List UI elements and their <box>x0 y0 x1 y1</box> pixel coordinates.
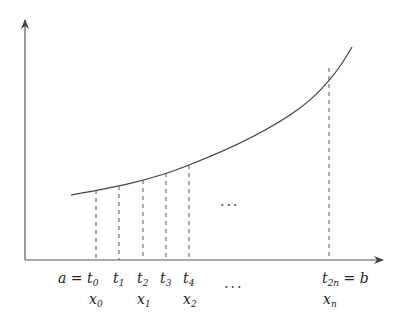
label-t4: t4 <box>183 270 195 288</box>
label-t2: t2 <box>137 270 149 288</box>
ellipsis-labels: ··· <box>224 279 243 295</box>
label-t2n-b: t2n = b <box>322 270 369 288</box>
x-labels: x0 x1 x2 xn <box>89 291 337 309</box>
label-t1: t1 <box>113 270 124 288</box>
label-xn: xn <box>323 291 337 309</box>
function-curve <box>71 47 352 195</box>
diagram-canvas: ··· a = t0 t1 t2 t3 t4 t2n = b ··· x0 x1 <box>0 0 408 323</box>
label-x0: x0 <box>89 291 103 309</box>
label-t3: t3 <box>160 270 172 288</box>
label-x2: x2 <box>183 291 197 309</box>
label-x1: x1 <box>137 291 151 309</box>
label-a-t0: a = t0 <box>58 270 99 288</box>
ellipsis-middle: ··· <box>220 197 239 213</box>
partition-lines <box>96 68 329 260</box>
